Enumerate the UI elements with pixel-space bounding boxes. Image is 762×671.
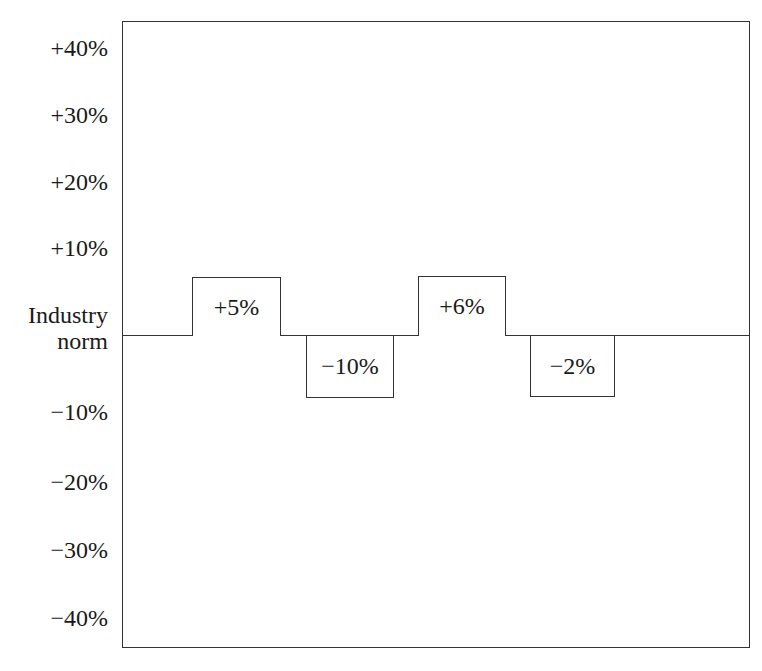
bar: +6% xyxy=(418,276,506,336)
y-tick-label: −10% xyxy=(50,400,108,424)
baseline-label: Industry norm xyxy=(28,302,108,354)
bar: +5% xyxy=(192,277,281,336)
baseline-label-line2: norm xyxy=(28,328,108,354)
y-tick-label: −30% xyxy=(50,538,108,562)
y-tick-label: −20% xyxy=(50,470,108,494)
bar-value-label: +6% xyxy=(439,293,485,320)
bar-value-label: −2% xyxy=(550,353,596,380)
bar-value-label: −10% xyxy=(321,353,379,380)
baseline-label-line1: Industry xyxy=(28,302,108,328)
y-tick-label: +10% xyxy=(50,236,108,260)
bar-value-label: +5% xyxy=(214,294,260,321)
bar: −2% xyxy=(530,336,615,397)
y-tick-label: −40% xyxy=(50,606,108,630)
y-tick-label: +30% xyxy=(50,103,108,127)
y-tick-label: +20% xyxy=(50,170,108,194)
bar: −10% xyxy=(306,336,394,398)
y-tick-label: +40% xyxy=(50,36,108,60)
